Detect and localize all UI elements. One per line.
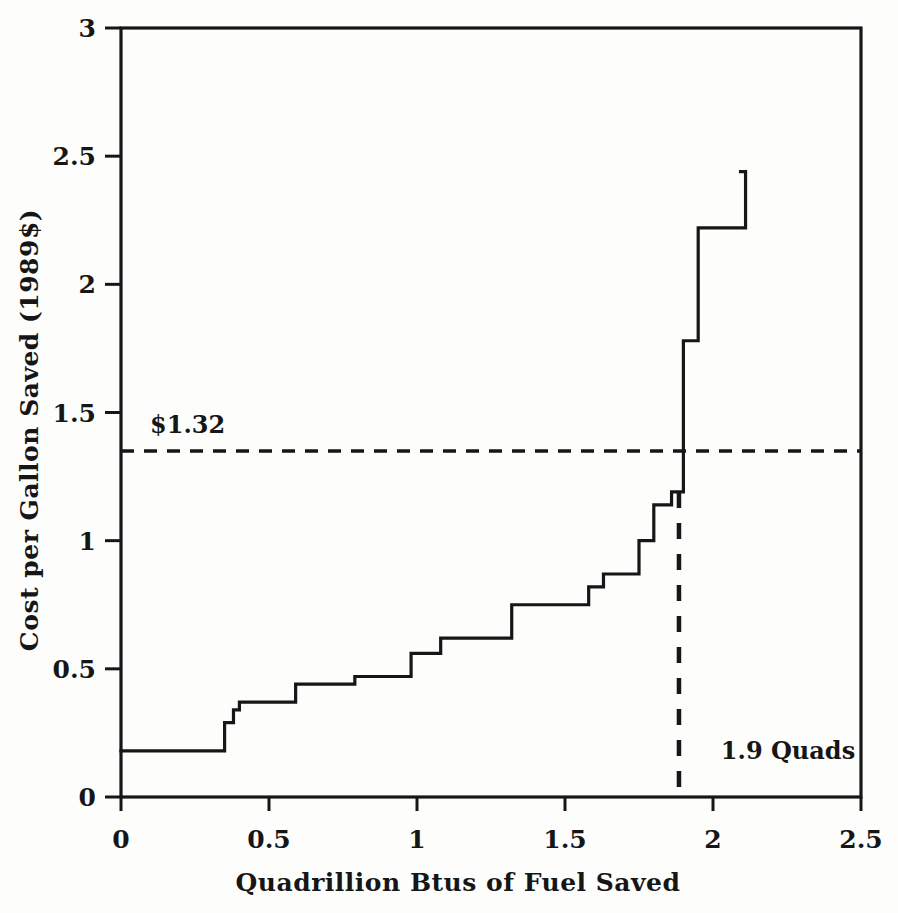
x-tick-label: 1.5 [543, 825, 587, 854]
x-axis-title: Quadrillion Btus of Fuel Saved [236, 868, 681, 897]
y-tick-label: 2 [79, 270, 96, 299]
x-tick-label: 0 [112, 825, 129, 854]
x-tick-label: 0.5 [247, 825, 291, 854]
y-tick-label: 1 [79, 527, 96, 556]
chart-canvas: 00.511.522.53 00.511.522.5 $1.32 1.9 Qua… [0, 0, 898, 913]
step-supply-curve [121, 172, 746, 751]
plot-area-border [121, 28, 861, 797]
y-tick-label: 2.5 [53, 142, 97, 171]
quads-threshold-label: 1.9 Quads [721, 736, 855, 765]
x-tick-label: 1 [408, 825, 425, 854]
x-axis-ticks: 00.511.522.5 [112, 797, 882, 854]
fuel-savings-supply-curve-chart: 00.511.522.53 00.511.522.5 $1.32 1.9 Qua… [0, 0, 898, 913]
y-axis-ticks: 00.511.522.53 [53, 14, 122, 812]
y-tick-label: 1.5 [53, 399, 97, 428]
y-tick-label: 0 [79, 783, 96, 812]
y-tick-label: 3 [79, 14, 96, 43]
x-tick-label: 2.5 [839, 825, 883, 854]
y-tick-label: 0.5 [53, 655, 97, 684]
y-axis-title: Cost per Gallon Saved (1989$) [15, 209, 44, 651]
x-tick-label: 2 [704, 825, 721, 854]
cost-threshold-label: $1.32 [150, 410, 225, 439]
